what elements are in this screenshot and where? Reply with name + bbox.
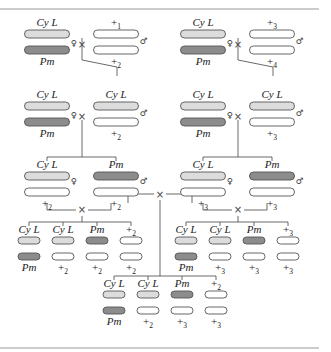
- cross-symbol: ×: [234, 111, 242, 122]
- female-p-left-bottom-label: Pm: [39, 55, 55, 67]
- progeny-center-3-top-chromosome: [205, 291, 227, 298]
- male-f1-left-top-label: Cy L: [105, 88, 126, 100]
- female-f2-left-bottom-chromosome: [25, 188, 70, 196]
- progeny-right-2-bottom-chromosome: [243, 253, 265, 260]
- progeny-right-0-bottom-label: Pm: [178, 261, 194, 273]
- male-f2-right-top-label: Pm: [264, 158, 280, 170]
- female-f2-right-top-chromosome: [181, 172, 226, 180]
- female-f1-right-bottom-chromosome: [181, 118, 226, 126]
- progeny-left-0-top-chromosome: [18, 237, 40, 244]
- male-p-right-bottom-label: +4: [267, 55, 277, 70]
- female-f1-right-top-label: Cy L: [192, 88, 213, 100]
- female-f1-left-bottom-chromosome: [25, 118, 70, 126]
- cross-symbol: ×: [234, 39, 242, 50]
- male-f2-left-top-label: Pm: [108, 158, 124, 170]
- progeny-right-1-bottom-chromosome: [209, 253, 231, 260]
- female-p-left-bottom-chromosome: [25, 46, 70, 54]
- male-f2-left-bottom-chromosome: [94, 188, 139, 196]
- progeny-center-2-top-label: Pm: [174, 277, 190, 289]
- female-p-right-bottom-label: Pm: [195, 55, 211, 67]
- progeny-left-2-top-label: Pm: [89, 223, 105, 235]
- progeny-left-1-bottom-chromosome: [52, 253, 74, 260]
- progeny-left-0-top-label: Cy L: [18, 223, 39, 235]
- female-p-right-bottom-chromosome: [181, 46, 226, 54]
- progeny-left-2-bottom-chromosome: [86, 253, 108, 260]
- progeny-left-1-top-label: Cy L: [52, 223, 73, 235]
- cross-symbol: ×: [78, 39, 86, 50]
- progeny-right-3-top-label: +3: [283, 223, 293, 238]
- female-f2-left-top-chromosome: [25, 172, 70, 180]
- female-p-left-top-label: Cy L: [36, 16, 57, 28]
- progeny-right-0-top-chromosome: [175, 237, 197, 244]
- progeny-left-0-bottom-label: Pm: [21, 261, 37, 273]
- progeny-center-3-top-label: +2: [211, 277, 221, 292]
- male-symbol: ♂: [140, 176, 148, 186]
- progeny-center-0-bottom-label: Pm: [106, 315, 122, 327]
- female-f2-right-top-label: Cy L: [192, 158, 213, 170]
- progeny-left-3-top-chromosome: [120, 237, 142, 244]
- male-symbol: ♂: [296, 36, 304, 46]
- female-f1-left-top-chromosome: [25, 102, 70, 110]
- progeny-center-2-top-chromosome: [171, 291, 193, 298]
- progeny-right-3-top-chromosome: [277, 237, 299, 244]
- progeny-center-3-bottom-chromosome: [205, 307, 227, 314]
- male-f1-left-top-chromosome: [94, 102, 139, 110]
- male-f2-left-bottom-label: +2: [111, 197, 121, 212]
- male-f1-right-top-chromosome: [250, 102, 295, 110]
- male-symbol: ♂: [296, 108, 304, 118]
- male-f2-right-bottom-label: +3: [267, 197, 277, 212]
- genetic-cross-diagram: Cy LPm+1+2♀♂×Cy LPm+3+4♀♂×Cy LPmCy L+2♀♂…: [0, 0, 331, 352]
- male-f1-left-bottom-chromosome: [94, 118, 139, 126]
- progeny-center-1-top-chromosome: [137, 291, 159, 298]
- progeny-right-3-bottom-label: +3: [283, 261, 293, 276]
- progeny-right-2-bottom-label: +3: [249, 261, 259, 276]
- male-f1-left-bottom-label: +2: [111, 127, 121, 142]
- cross-symbol: ×: [78, 204, 86, 215]
- progeny-right-0-top-label: Cy L: [175, 223, 196, 235]
- cross-symbol: ×: [234, 204, 242, 215]
- progeny-left-1-bottom-label: +2: [58, 261, 68, 276]
- female-symbol: ♀: [71, 110, 77, 120]
- male-p-left-bottom-chromosome: [94, 46, 139, 54]
- female-p-right-top-label: Cy L: [192, 16, 213, 28]
- progeny-right-2-top-chromosome: [243, 237, 265, 244]
- male-f1-right-bottom-label: +3: [267, 127, 277, 142]
- male-p-right-bottom-chromosome: [250, 46, 295, 54]
- male-f2-right-bottom-chromosome: [250, 188, 295, 196]
- female-f1-right-top-chromosome: [181, 102, 226, 110]
- progeny-center-2-bottom-chromosome: [171, 307, 193, 314]
- female-f1-left-bottom-label: Pm: [39, 127, 55, 139]
- progeny-center-3-bottom-label: +3: [211, 315, 221, 330]
- progeny-left-2-bottom-label: +2: [92, 261, 102, 276]
- progeny-center-0-top-chromosome: [103, 291, 125, 298]
- progeny-left-3-bottom-chromosome: [120, 253, 142, 260]
- male-symbol: ♂: [140, 36, 148, 46]
- female-f1-left-top-label: Cy L: [36, 88, 57, 100]
- female-symbol: ♀: [71, 176, 77, 186]
- progeny-left-1-top-chromosome: [52, 237, 74, 244]
- female-p-right-top-chromosome: [181, 30, 226, 38]
- progeny-center-2-bottom-label: +3: [177, 315, 187, 330]
- female-f2-right-bottom-chromosome: [181, 188, 226, 196]
- cross-symbol: ×: [156, 189, 164, 200]
- progeny-center-0-bottom-chromosome: [103, 307, 125, 314]
- female-symbol: ♀: [227, 110, 233, 120]
- male-p-right-top-label: +3: [267, 16, 277, 31]
- progeny-right-1-bottom-label: +3: [215, 261, 225, 276]
- male-f2-right-top-chromosome: [250, 172, 295, 180]
- chromosome-content: Cy LPm+1+2♀♂×Cy LPm+3+4♀♂×Cy LPmCy L+2♀♂…: [18, 16, 304, 330]
- progeny-left-3-top-label: +2: [126, 223, 136, 238]
- male-p-left-top-label: +1: [111, 16, 121, 31]
- female-f1-right-bottom-label: Pm: [195, 127, 211, 139]
- male-f2-left-top-chromosome: [94, 172, 139, 180]
- cross-symbol: ×: [78, 111, 86, 122]
- male-p-left-bottom-label: +2: [111, 55, 121, 70]
- progeny-right-3-bottom-chromosome: [277, 253, 299, 260]
- male-f1-right-bottom-chromosome: [250, 118, 295, 126]
- progeny-center-1-bottom-chromosome: [137, 307, 159, 314]
- progeny-center-0-top-label: Cy L: [103, 277, 124, 289]
- male-p-right-top-chromosome: [250, 30, 295, 38]
- female-p-left-top-chromosome: [25, 30, 70, 38]
- progeny-right-1-top-chromosome: [209, 237, 231, 244]
- progeny-left-3-bottom-label: +2: [126, 261, 136, 276]
